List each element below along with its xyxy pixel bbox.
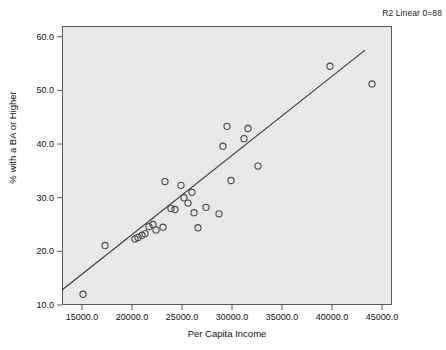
data-point — [80, 291, 86, 297]
tick-marks — [57, 37, 382, 310]
data-point — [245, 125, 251, 131]
data-point — [153, 227, 159, 233]
data-point — [191, 210, 197, 216]
data-point — [168, 205, 174, 211]
data-point — [216, 211, 222, 217]
data-point — [228, 177, 234, 183]
data-point — [160, 224, 166, 230]
data-point — [255, 163, 261, 169]
data-point — [162, 178, 168, 184]
data-points — [80, 63, 375, 297]
data-point — [102, 242, 108, 248]
chart-overlay — [0, 0, 446, 350]
data-point — [203, 204, 209, 210]
data-point — [189, 189, 195, 195]
data-point — [241, 136, 247, 142]
data-point — [178, 182, 184, 188]
data-point — [195, 225, 201, 231]
data-point — [181, 195, 187, 201]
data-point — [224, 123, 230, 129]
data-point — [220, 143, 226, 149]
data-point — [185, 200, 191, 206]
data-point — [369, 81, 375, 87]
data-point — [327, 63, 333, 69]
data-point — [172, 206, 178, 212]
regression-line — [62, 50, 365, 290]
scatter-chart: R2 Linear 0=88 % with a BA or Higher Per… — [0, 0, 446, 350]
